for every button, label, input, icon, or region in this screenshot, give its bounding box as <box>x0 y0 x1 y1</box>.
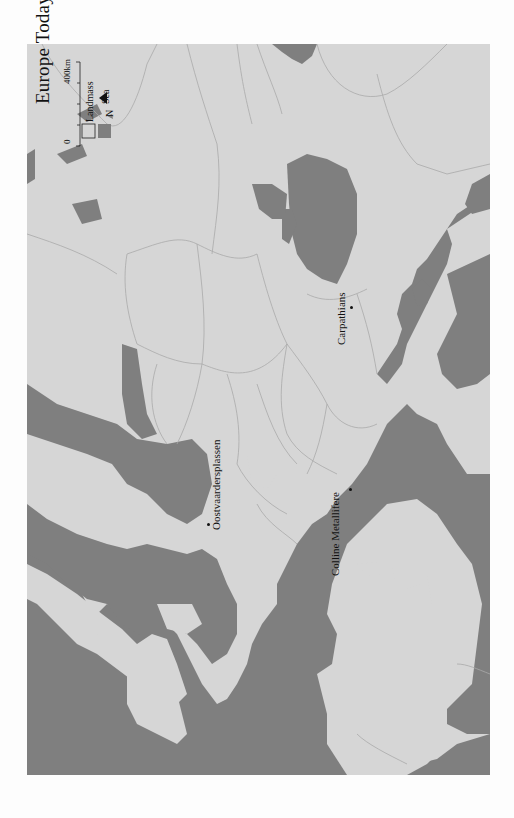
legend-landmass-swatch <box>82 124 95 138</box>
place-marker-colline-metallifere <box>349 488 352 491</box>
place-label-carpathians: Carpathians <box>335 292 347 345</box>
legend-landmass-label: Landmass <box>84 81 95 122</box>
north-arrow-icon <box>96 90 112 106</box>
europe-map <box>27 44 490 775</box>
place-label-oostvaardersplassen: Oostvaardersplassen <box>210 440 222 530</box>
north-label: N <box>104 110 115 117</box>
map-frame <box>27 44 490 775</box>
sea-areas <box>27 44 490 775</box>
place-marker-carpathians <box>350 306 353 309</box>
scale-end-label: 400km <box>62 59 72 84</box>
map-title: Europe Today <box>32 0 54 104</box>
place-label-colline-metallifere: Colline Metallifere <box>329 492 341 576</box>
scale-start-label: 0 <box>62 140 72 145</box>
legend-sea-swatch <box>98 124 111 138</box>
